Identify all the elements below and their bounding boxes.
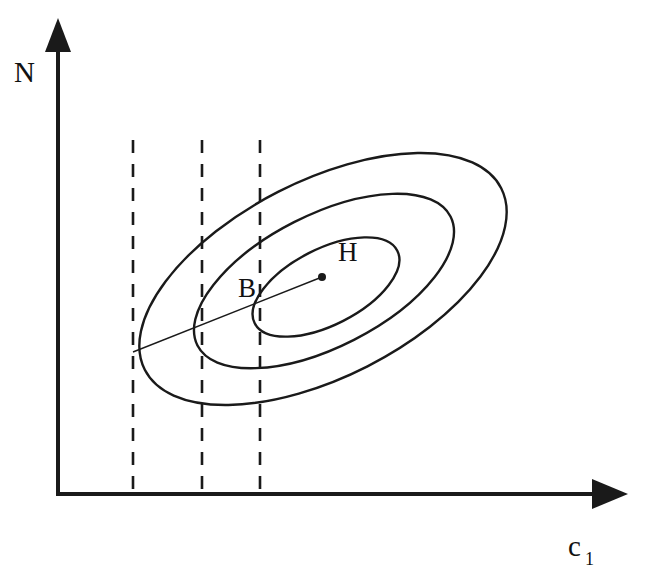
y-axis-arrowhead xyxy=(45,18,71,52)
contour-diagram: N c 1 B H xyxy=(0,0,647,585)
x-axis-arrowhead xyxy=(592,479,628,509)
middle-contour-ellipse xyxy=(168,158,481,405)
point-label-h: H xyxy=(338,237,358,267)
figure-canvas: N c 1 B H xyxy=(0,0,647,585)
inner-contour-ellipse xyxy=(237,217,414,357)
y-axis-label: N xyxy=(14,56,35,88)
point-label-b: B xyxy=(238,273,256,303)
point-h-marker xyxy=(318,273,326,281)
x-axis-label-subscript: 1 xyxy=(585,549,594,569)
x-axis-label: c xyxy=(568,530,581,562)
